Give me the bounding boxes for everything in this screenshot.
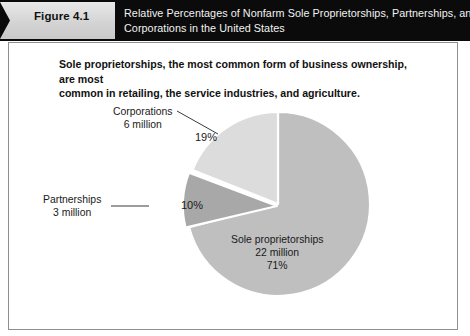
pie-label-partnerships-count: 3 million — [43, 206, 101, 219]
figure-title-line-1: Relative Percentages of Nonfarm Sole Pro… — [124, 6, 454, 21]
figure-title-line-2: Corporations in the United States — [124, 21, 454, 36]
pie-label-sole-percent: 71% — [231, 259, 323, 272]
pie-label-corporations-count: 6 million — [113, 118, 173, 131]
figure-title: Relative Percentages of Nonfarm Sole Pro… — [124, 6, 454, 36]
pie-label-corporations: Corporations 6 million — [113, 105, 173, 131]
pie-label-partnerships-name: Partnerships — [43, 193, 101, 206]
figure-number-label: Figure 4.1 — [34, 10, 89, 22]
figure-body-frame: Sole proprietorships, the most common fo… — [8, 42, 458, 330]
pie-label-sole-name: Sole proprietorships — [231, 233, 323, 246]
figure-header-band: Figure 4.1 Relative Percentages of Nonfa… — [0, 0, 470, 41]
pie-label-corporations-name: Corporations — [113, 105, 173, 118]
pie-label-partnerships: Partnerships 3 million — [43, 193, 101, 219]
pie-label-sole-count: 22 million — [231, 246, 323, 259]
pie-percent-corporations: 19% — [195, 131, 217, 143]
pie-chart: Corporations 6 million 19% Partnerships … — [9, 43, 459, 331]
pie-label-sole-proprietorships: Sole proprietorships 22 million 71% — [231, 233, 323, 272]
pie-chart-svg — [9, 43, 459, 331]
pie-percent-partnerships: 10% — [181, 199, 203, 211]
